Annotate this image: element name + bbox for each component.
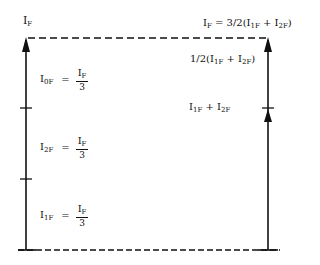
segment-equation-i0f: I0F = IF 3 xyxy=(40,67,88,92)
eq-denominator: 3 xyxy=(79,82,85,93)
rm-sub2: 2F xyxy=(242,58,251,66)
segment-equation-i1f: I1F = IF 3 xyxy=(40,203,88,228)
rm-sub1: 1F xyxy=(214,58,223,66)
eq-lhs: I1F xyxy=(40,209,53,222)
label-sub: F xyxy=(27,20,32,28)
rm-end: ) xyxy=(251,53,255,64)
left-arrow-head-icon xyxy=(22,37,30,52)
eq-num-sub: F xyxy=(82,140,87,148)
eq-lhs: I2F xyxy=(40,141,53,154)
right-mid-arrow-head-icon xyxy=(264,109,272,122)
tr-sub1: 1F xyxy=(251,22,260,30)
eq-equals: = xyxy=(61,74,69,85)
eq-fraction: IF 3 xyxy=(76,135,89,160)
top-right-label: IF = 3/2(I1F + I2F) xyxy=(203,18,292,30)
segment-equation-i2f: I2F = IF 3 xyxy=(40,135,88,160)
eq-lhs-sub: 0F xyxy=(44,78,53,86)
eq-equals: = xyxy=(61,142,69,153)
top-left-label: IF xyxy=(23,15,32,28)
tr-end: ) xyxy=(288,17,292,28)
eq-denominator: 3 xyxy=(79,218,85,229)
rl-mid: + I xyxy=(202,101,221,112)
tr-mid: + I xyxy=(260,17,279,28)
eq-num-sub: F xyxy=(82,208,87,216)
eq-fraction: IF 3 xyxy=(76,67,89,92)
right-top-arrow-head-icon xyxy=(264,37,272,52)
eq-lhs-sub: 1F xyxy=(44,214,53,222)
tr-rest: = 3/2(I xyxy=(212,17,251,28)
eq-denominator: 3 xyxy=(79,150,85,161)
eq-equals: = xyxy=(61,210,69,221)
eq-fraction: IF 3 xyxy=(76,203,89,228)
eq-lhs: I0F xyxy=(40,73,53,86)
right-mid-label: 1/2(I1F + I2F) xyxy=(190,54,255,66)
rl-sub1: 1F xyxy=(193,106,202,114)
rl-sub2: 2F xyxy=(221,106,230,114)
eq-lhs-sub: 2F xyxy=(44,146,53,154)
rm-prefix: 1/2(I xyxy=(190,53,214,64)
eq-num-sub: F xyxy=(82,72,87,80)
eq-numerator: IF xyxy=(76,135,89,150)
tr-sub2: 2F xyxy=(279,22,288,30)
eq-numerator: IF xyxy=(76,203,89,218)
rm-mid: + I xyxy=(223,53,242,64)
right-lower-label: I1F + I2F xyxy=(189,102,230,114)
eq-numerator: IF xyxy=(76,67,89,82)
